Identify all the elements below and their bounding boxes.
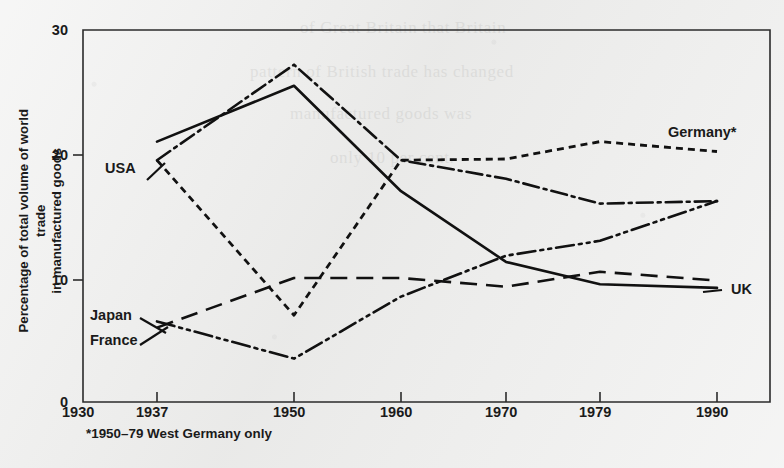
plot-area-svg: [0, 0, 784, 468]
series-label-germany: Germany*: [668, 124, 737, 140]
series-label-uk: UK: [731, 281, 752, 297]
series-line-usa: [157, 86, 717, 288]
series-label-france: France: [90, 332, 138, 348]
x-tick-label-1960: 1960: [380, 404, 412, 420]
x-tick-label-1970: 1970: [485, 404, 517, 420]
series-label-japan: Japan: [90, 307, 132, 323]
series-label-usa: USA: [105, 160, 136, 176]
x-axis-tick-marks: [157, 392, 717, 402]
x-tick-label-1990: 1990: [696, 404, 728, 420]
y-tick-label-10: 10: [28, 272, 68, 288]
series-paths-group: [157, 65, 717, 359]
y-axis-title-line1: Percentage of total volume of world trad…: [16, 109, 48, 333]
y-tick-label-30: 30: [28, 22, 68, 38]
label-leader-lines: [140, 163, 722, 345]
y-axis-tick-marks: [73, 155, 83, 280]
series-line-japan: [157, 272, 717, 328]
chart-footnote: *1950–79 West Germany only: [86, 426, 272, 441]
x-tick-label-1930: 1930: [62, 404, 94, 420]
x-tick-label-1950: 1950: [273, 404, 305, 420]
series-line-uk: [157, 65, 717, 204]
y-axis-title: Percentage of total volume of world trad…: [16, 96, 66, 346]
line-chart-figure: Percentage of total volume of world trad…: [0, 0, 784, 468]
plot-frame: [83, 30, 770, 402]
x-tick-label-1937: 1937: [136, 404, 168, 420]
x-tick-label-1979: 1979: [579, 404, 611, 420]
y-tick-label-20: 20: [28, 147, 68, 163]
